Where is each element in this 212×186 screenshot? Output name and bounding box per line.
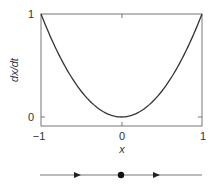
- plot-frame: [41, 14, 202, 126]
- xtick-label-neg1: −1: [33, 130, 46, 142]
- y-axis-label: dx/dt: [8, 57, 20, 82]
- ytick-label-0: 0: [28, 111, 34, 123]
- fixed-point-marker: [118, 172, 124, 178]
- chart-canvas: 1 0 −1 0 1 x dx/dt: [0, 0, 212, 186]
- curve-line: [41, 14, 202, 117]
- xtick-label-1: 1: [200, 130, 206, 142]
- x-axis-label: x: [118, 143, 125, 155]
- arrow-right-icon: [153, 172, 160, 178]
- xtick-label-0: 0: [119, 130, 125, 142]
- arrow-right-icon: [74, 172, 81, 178]
- ytick-label-1: 1: [28, 8, 34, 20]
